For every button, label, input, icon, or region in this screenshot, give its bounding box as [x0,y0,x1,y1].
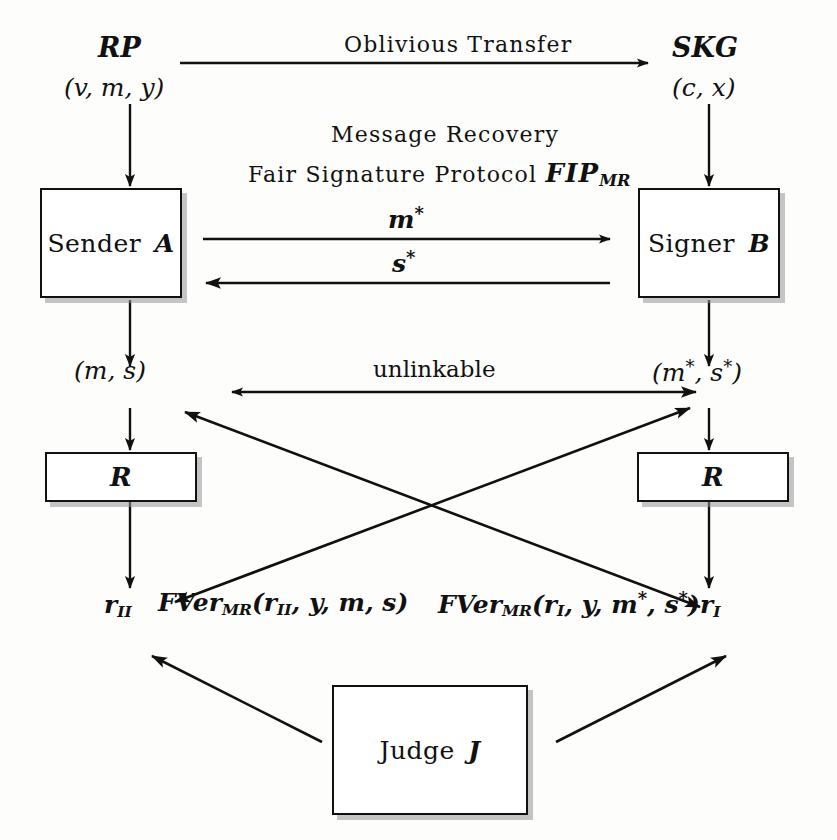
diagram-canvas: RP (v, m, y) SKG (c, x) Oblivious Transf… [0,0,837,840]
fver-right-star2: * [679,588,688,609]
receiver-left-label: R [110,462,132,492]
right-result-base: r [700,590,713,619]
left-result-label: rII [104,592,132,620]
signer-box-label: Signer B [648,229,770,258]
receiver-left-box[interactable]: R [45,452,197,502]
m-star-superscript: * [414,203,423,224]
oblivious-transfer-text: Oblivious Transfer [344,32,572,57]
skg-text: SKG [672,32,738,63]
fver-left-args-open: (r [252,588,277,617]
left-pair-label: (m, s) [74,358,146,384]
right-result-subscript: I [713,602,720,621]
fver-left-name: FVer [158,588,222,617]
judge-label-italic: J [463,736,480,765]
oblivious-transfer-label: Oblivious Transfer [344,33,572,56]
fver-right-args-close: ) [688,590,700,619]
receiver-right-label: R [702,462,724,492]
receiver-right-box[interactable]: R [637,452,789,502]
s-star-base: s [392,249,406,278]
fver-right-args-open: (r [532,590,557,619]
judge-to-right-arrow [556,656,726,742]
left-result-subscript: II [117,602,132,621]
m-star-label: m* [388,205,424,233]
right-pair-mid: , s [694,358,723,387]
fver-left-subscript: MR [222,600,252,619]
fver-right-subscript: MR [502,601,532,620]
unlinkable-text: unlinkable [373,356,496,382]
right-pair-open: (m [652,358,685,387]
protocol-fip-subscript: MR [599,171,630,190]
right-pair-star2: * [723,356,732,377]
sender-box[interactable]: Sender A [40,188,182,298]
skg-params-text: (c, x) [672,73,736,102]
s-star-label: s* [392,249,416,277]
protocol-line1-text: Message Recovery [331,122,559,147]
fver-left-label: FVerMR(rII, y, m, s) [158,590,408,618]
protocol-line2-prefix: Fair Signature Protocol [248,162,546,187]
right-result-label: rI [700,592,720,620]
s-star-superscript: * [406,247,415,268]
judge-label-text: Judge [379,736,463,765]
fver-left-args-subscript: II [277,600,292,619]
judge-box-label: Judge J [379,736,480,765]
rp-params: (v, m, y) [64,75,164,101]
fver-left-args-rest: , y, m, s) [292,588,409,617]
m-star-base: m [388,205,414,234]
protocol-label-line1: Message Recovery [331,123,559,146]
fver-right-args-mid: , y, m [564,590,637,619]
fver-right-star1: * [638,588,647,609]
signer-label-italic: B [743,229,770,258]
skg-label: SKG [672,34,738,62]
left-result-base: r [104,590,117,619]
sender-label-italic: A [150,229,175,258]
rp-label: RP [98,34,141,62]
right-pair-label: (m*, s*) [652,358,742,386]
fver-right-name: FVer [438,590,502,619]
left-pair-text: (m, s) [74,356,146,385]
rp-text: RP [98,32,141,63]
cross-arrow-to-right-label [185,412,700,607]
right-pair-close: ) [732,358,742,387]
protocol-label-line2: Fair Signature Protocol FIPMR [248,160,631,190]
judge-to-left-arrow [152,656,322,742]
protocol-fip-name: FIP [546,158,600,188]
signer-box[interactable]: Signer B [638,188,780,298]
rp-params-text: (v, m, y) [64,73,164,102]
skg-params: (c, x) [672,75,736,101]
fver-right-args-mid2: , s [647,590,678,619]
sender-label-text: Sender [47,229,149,258]
signer-label-text: Signer [648,229,743,258]
judge-box[interactable]: Judge J [332,685,528,815]
fver-right-label: FVerMR(rI, y, m*, s*) [438,590,700,620]
unlinkable-label: unlinkable [373,357,496,381]
sender-box-label: Sender A [47,229,174,258]
